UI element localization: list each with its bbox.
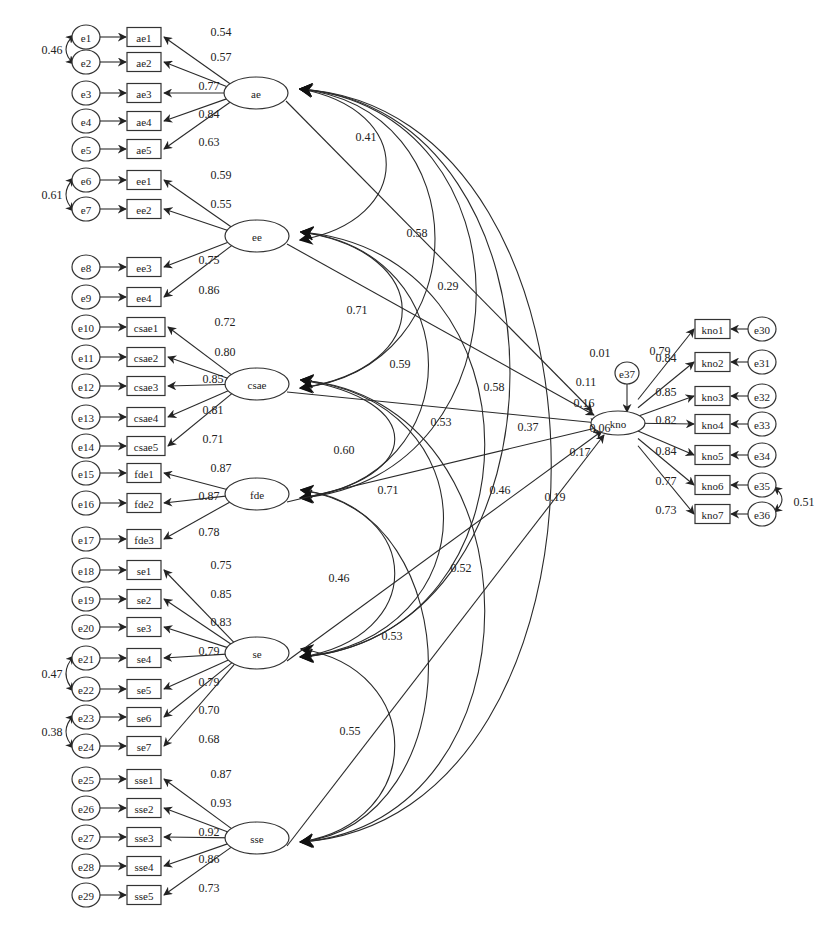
observed-variable-label: sse5 — [135, 890, 154, 902]
observed-variable-label: se7 — [137, 741, 152, 753]
observed-variable-label: ee2 — [136, 204, 151, 216]
error-term-label: e14 — [78, 441, 94, 453]
factor-loading-value: 0.70 — [199, 703, 220, 717]
factor-loading-value: 0.81 — [203, 403, 224, 417]
observed-variable-label: csae1 — [134, 322, 158, 334]
factor-loading-value: 0.73 — [199, 881, 220, 895]
observed-variable-label: se6 — [137, 712, 152, 724]
factor-loading-value: 0.80 — [215, 345, 236, 359]
factor-correlation-arc — [301, 490, 429, 842]
error-term-label: e13 — [78, 412, 94, 424]
factor-correlation-value: 0.59 — [390, 357, 411, 371]
error-term-label: e22 — [78, 684, 94, 696]
factor-loading-value: 0.87 — [211, 767, 232, 781]
error-term-label: e17 — [78, 534, 94, 546]
error-term-label: e25 — [78, 774, 94, 786]
error-term-label: e18 — [78, 565, 94, 577]
observed-variable-label: kno5 — [702, 450, 725, 462]
observed-variable-label: se5 — [137, 684, 152, 696]
observed-variable-label: csae5 — [134, 441, 159, 453]
observed-variable-label: fde1 — [134, 468, 154, 480]
factor-loading-value: 0.87 — [211, 461, 232, 475]
error-covariance-value: 0.51 — [794, 495, 815, 509]
factor-correlation-value: 0.46 — [490, 483, 511, 497]
loading-path — [168, 357, 235, 381]
structural-path — [287, 244, 594, 415]
factor-loading-value: 0.75 — [199, 253, 220, 267]
error-covariance-arc — [774, 487, 782, 512]
factor-correlation-value: 0.52 — [451, 561, 472, 575]
error-term-label: e11 — [78, 352, 93, 364]
structural-path-value: 0.29 — [438, 279, 459, 293]
factor-loading-value: 0.77 — [199, 79, 220, 93]
factor-loading-value: 0.78 — [199, 525, 220, 539]
factor-correlation-value: 0.53 — [431, 415, 452, 429]
error-term-label: e33 — [754, 419, 770, 431]
factor-correlation-value: 0.71 — [347, 303, 368, 317]
factor-loading-value: 0.75 — [211, 558, 232, 572]
observed-variable-label: sse1 — [135, 774, 154, 786]
factor-correlation-arc — [301, 649, 395, 842]
latent-factor-label: sse — [250, 833, 264, 845]
disturbance-label: e37 — [619, 368, 635, 380]
factor-correlation-value: 0.58 — [484, 380, 505, 394]
factor-loading-value: 0.92 — [199, 825, 220, 839]
observed-variable-label: se3 — [137, 622, 152, 634]
observed-variable-label: sse2 — [135, 803, 154, 815]
error-term-label: e5 — [81, 144, 92, 156]
structural-path-value: 0.19 — [545, 490, 566, 504]
factor-loading-value: 0.85 — [656, 385, 677, 399]
error-term-label: e4 — [81, 116, 92, 128]
error-term-label: e28 — [78, 861, 94, 873]
factor-correlation-value: 0.71 — [378, 483, 399, 497]
error-term-label: e21 — [78, 653, 94, 665]
loading-path — [164, 209, 235, 233]
structural-path-value: 0.06 — [590, 421, 611, 435]
error-term-label: e20 — [78, 622, 94, 634]
structural-path-value: 0.01 — [590, 346, 611, 360]
observed-variable-label: ae4 — [136, 116, 152, 128]
factor-loading-value: 0.77 — [656, 474, 677, 488]
error-covariance-value: 0.47 — [42, 667, 63, 681]
latent-factor-label: ee — [252, 231, 262, 243]
factor-loading-value: 0.84 — [656, 444, 677, 458]
error-term-label: e16 — [78, 498, 94, 510]
error-term-label: e27 — [78, 832, 94, 844]
observed-variable-label: fde2 — [134, 498, 154, 510]
observed-variable-label: csae2 — [134, 352, 158, 364]
factor-loading-value: 0.57 — [211, 50, 232, 64]
factor-loading-value: 0.71 — [203, 432, 224, 446]
structural-path-value: 0.11 — [576, 375, 597, 389]
observed-variable-label: sse3 — [135, 832, 154, 844]
observed-variable-label: kno1 — [702, 324, 724, 336]
error-term-label: e35 — [754, 480, 770, 492]
factor-correlation-arc — [301, 380, 444, 657]
error-term-label: e10 — [78, 322, 94, 334]
factor-correlation-value: 0.58 — [407, 226, 428, 240]
error-term-label: e1 — [81, 32, 91, 44]
structural-path — [286, 101, 592, 411]
factor-correlation-value: 0.53 — [382, 629, 403, 643]
factor-loading-value: 0.63 — [199, 135, 220, 149]
observed-variable-label: sse4 — [135, 861, 154, 873]
factor-correlation-arc — [301, 232, 485, 657]
error-term-label: e36 — [754, 509, 770, 521]
factor-correlation-value: 0.46 — [329, 571, 350, 585]
edges-layer — [66, 35, 782, 895]
outcome-factor-label: kno — [610, 418, 627, 430]
sem-path-diagram: ae1e10.54ae2e20.57ae3e30.77ae4e40.84ae5e… — [0, 0, 840, 942]
error-covariance-value: 0.38 — [42, 725, 63, 739]
observed-variable-label: csae3 — [134, 381, 159, 393]
factor-loading-value: 0.84 — [656, 351, 677, 365]
error-term-label: e24 — [78, 741, 94, 753]
factor-loading-value: 0.83 — [211, 615, 232, 629]
observed-variable-label: fde3 — [134, 534, 154, 546]
observed-variable-label: se2 — [137, 594, 152, 606]
factor-loading-value: 0.59 — [211, 168, 232, 182]
error-term-label: e9 — [81, 292, 92, 304]
error-term-label: e30 — [754, 324, 770, 336]
factor-correlation-arc — [300, 89, 386, 240]
error-term-label: e8 — [81, 262, 92, 274]
observed-variable-label: ae5 — [136, 144, 152, 156]
factor-loading-value: 0.72 — [215, 315, 236, 329]
